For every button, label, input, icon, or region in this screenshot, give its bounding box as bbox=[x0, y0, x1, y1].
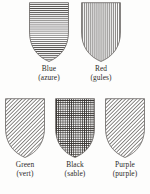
shield-term-blue: (azure) bbox=[38, 73, 60, 82]
shield-label-purple: Purple bbox=[115, 160, 135, 169]
shield-red-fill bbox=[82, 3, 121, 62]
shield-blue-graphic bbox=[28, 2, 70, 62]
shield-cell-green: Green (vert) bbox=[3, 98, 47, 178]
shield-row-top: Blue (azure) Red (gules) bbox=[0, 2, 150, 82]
shield-purple bbox=[104, 98, 146, 158]
shield-blue-fill bbox=[30, 3, 69, 62]
shield-cell-purple: Purple (purple) bbox=[103, 98, 147, 178]
shield-term-red: (gules) bbox=[90, 73, 111, 82]
shield-green bbox=[4, 98, 46, 158]
shield-purple-graphic bbox=[104, 98, 146, 158]
shield-cell-blue: Blue (azure) bbox=[27, 2, 71, 82]
shield-red-graphic bbox=[80, 2, 122, 62]
shield-cell-red: Red (gules) bbox=[79, 2, 123, 82]
shield-purple-fill bbox=[106, 99, 145, 158]
shield-row-bottom: Green (vert) Black (sable) Purpl bbox=[0, 98, 150, 178]
shield-green-fill bbox=[6, 99, 45, 158]
shield-term-green: (vert) bbox=[16, 169, 35, 178]
shield-caption-red: Red (gules) bbox=[90, 64, 111, 82]
shield-term-black: (sable) bbox=[65, 169, 86, 178]
shield-label-red: Red bbox=[95, 64, 107, 73]
shield-label-black: Black bbox=[66, 160, 84, 169]
shield-cell-black: Black (sable) bbox=[53, 98, 97, 178]
shield-term-purple: (purple) bbox=[113, 169, 138, 178]
shield-black-graphic bbox=[54, 98, 96, 158]
shield-caption-blue: Blue (azure) bbox=[38, 64, 60, 82]
shield-label-blue: Blue bbox=[42, 64, 56, 73]
shield-blue bbox=[28, 2, 70, 62]
shield-black bbox=[54, 98, 96, 158]
shield-caption-purple: Purple (purple) bbox=[113, 160, 138, 178]
shield-caption-green: Green (vert) bbox=[16, 160, 35, 178]
shield-label-green: Green bbox=[16, 160, 35, 169]
shield-black-fill bbox=[56, 99, 95, 158]
shield-red bbox=[80, 2, 122, 62]
shield-caption-black: Black (sable) bbox=[65, 160, 86, 178]
shield-green-graphic bbox=[4, 98, 46, 158]
tincture-hatching-figure: Blue (azure) Red (gules) bbox=[0, 0, 150, 194]
